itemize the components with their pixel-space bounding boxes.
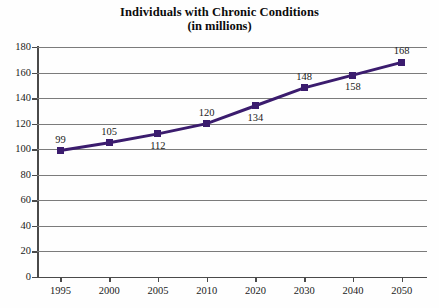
y-axis-tick: [32, 98, 37, 99]
data-point-label: 168: [382, 45, 422, 56]
x-axis-tick-label: 2005: [135, 285, 181, 296]
x-axis-tick: [353, 277, 354, 282]
y-axis-tick-label: 40: [3, 221, 31, 231]
y-axis-tick: [32, 277, 37, 278]
y-axis-tick: [32, 175, 37, 176]
gridline: [37, 149, 427, 150]
gridline: [37, 98, 427, 99]
data-point-label: 99: [40, 134, 80, 145]
data-point-label: 158: [333, 81, 373, 92]
y-axis-tick: [32, 124, 37, 125]
y-axis-tick-label: 180: [3, 42, 31, 52]
x-axis-tick: [402, 277, 403, 282]
data-point-marker: [57, 147, 64, 154]
y-axis-tick-label: 20: [3, 246, 31, 256]
x-axis-tick: [109, 277, 110, 282]
y-axis-labels: 180160140120100806040200: [0, 0, 31, 308]
gridline: [37, 124, 427, 125]
chart-title: Individuals with Chronic Conditions: [0, 5, 439, 19]
data-point-marker: [154, 130, 161, 137]
x-axis-tick-label: 1995: [37, 285, 83, 296]
data-point-label: 120: [187, 107, 227, 118]
gridline: [37, 47, 427, 48]
chart-subtitle: (in millions): [0, 19, 439, 33]
y-axis-tick: [32, 200, 37, 201]
data-point-label: 134: [235, 112, 275, 123]
gridline: [37, 226, 427, 227]
x-axis-tick: [207, 277, 208, 282]
x-axis-tick-label: 2020: [232, 285, 278, 296]
data-point-marker: [349, 72, 356, 79]
y-axis-tick-label: 120: [3, 119, 31, 129]
y-axis-tick-label: 80: [3, 170, 31, 180]
y-axis-tick-label: 160: [3, 68, 31, 78]
x-axis-tick-label: 2040: [330, 285, 376, 296]
chart-page: Individuals with Chronic Conditions (in …: [0, 0, 439, 308]
y-axis-tick: [32, 226, 37, 227]
x-axis-tick-label: 2050: [379, 285, 425, 296]
x-axis-tick: [304, 277, 305, 282]
x-axis-tick: [60, 277, 61, 282]
x-axis-tick-label: 2010: [184, 285, 230, 296]
data-point-label: 105: [89, 126, 129, 137]
x-axis-tick-label: 2030: [281, 285, 327, 296]
data-point-marker: [252, 102, 259, 109]
y-axis-tick: [32, 47, 37, 48]
y-axis-tick-label: 0: [3, 272, 31, 282]
data-point-marker: [106, 139, 113, 146]
y-axis-tick-label: 140: [3, 93, 31, 103]
x-axis-tick: [255, 277, 256, 282]
data-point-label: 148: [284, 71, 324, 82]
gridline: [37, 251, 427, 252]
gridline: [37, 200, 427, 201]
data-point-marker: [398, 59, 405, 66]
x-axis-tick: [158, 277, 159, 282]
gridline: [37, 175, 427, 176]
y-axis-tick: [32, 251, 37, 252]
data-point-marker: [203, 120, 210, 127]
gridline: [37, 73, 427, 74]
y-axis-tick-label: 100: [3, 144, 31, 154]
y-axis-tick: [32, 149, 37, 150]
data-point-label: 112: [138, 140, 178, 151]
y-axis-tick-label: 60: [3, 195, 31, 205]
data-point-marker: [301, 84, 308, 91]
y-axis-tick: [32, 73, 37, 74]
x-axis-tick-label: 2000: [86, 285, 132, 296]
